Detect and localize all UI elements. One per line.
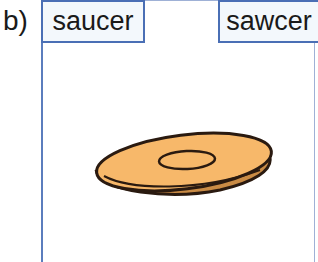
option-box-sawcer[interactable]: sawcer [218, 0, 318, 43]
option-text: sawcer [226, 6, 312, 36]
saucer-illustration-icon [90, 118, 280, 198]
option-text: saucer [52, 6, 133, 36]
question-label: b) [3, 4, 28, 38]
option-box-saucer[interactable]: saucer [41, 0, 145, 43]
